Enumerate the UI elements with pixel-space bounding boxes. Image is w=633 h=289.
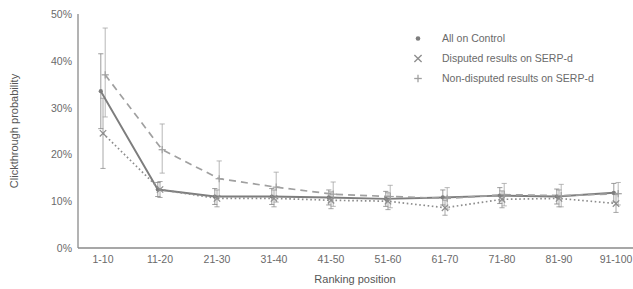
legend: All on ControlDisputed results on SERP-d… <box>414 32 594 84</box>
x-tick-label: 51-60 <box>375 253 402 265</box>
x-tick-label: 91-100 <box>600 253 633 265</box>
series-line <box>101 91 614 199</box>
x-tick-label: 1-10 <box>92 253 113 265</box>
data-point-marker <box>99 89 103 93</box>
y-tick-label: 40% <box>51 55 72 67</box>
y-axis-tick-labels: 0%10%20%30%40%50% <box>51 8 72 254</box>
legend-item[interactable]: Disputed results on SERP-d <box>414 52 572 64</box>
legend-item[interactable]: Non-disputed results on SERP-d <box>414 72 594 84</box>
y-tick-label: 20% <box>51 148 72 160</box>
plus-marker-icon <box>414 75 422 83</box>
cross-marker-icon <box>414 55 421 62</box>
chart-figure: 0%10%20%30%40%50% 1-1011-2021-3031-4041-… <box>0 0 633 289</box>
x-tick-label: 11-20 <box>147 253 173 265</box>
legend-label: Disputed results on SERP-d <box>442 52 573 64</box>
data-point-marker <box>216 175 223 182</box>
dot-marker-icon <box>416 36 421 41</box>
series-lines-layer <box>101 75 618 208</box>
legend-item[interactable]: All on Control <box>416 32 505 44</box>
x-axis-tick-labels: 1-1011-2021-3031-4041-5051-6061-7071-808… <box>92 253 632 265</box>
y-tick-label: 50% <box>51 8 72 20</box>
y-tick-label: 10% <box>51 195 72 207</box>
y-axis-title: Clickthrough probability <box>8 73 20 188</box>
x-tick-label: 61-70 <box>432 253 459 265</box>
x-tick-label: 41-50 <box>318 253 345 265</box>
x-tick-label: 31-40 <box>261 253 288 265</box>
x-tick-label: 81-90 <box>546 253 573 265</box>
y-tick-label: 30% <box>51 102 72 114</box>
clickthrough-probability-line-chart: 0%10%20%30%40%50% 1-1011-2021-3031-4041-… <box>0 0 633 289</box>
x-tick-label: 21-30 <box>204 253 231 265</box>
legend-label: Non-disputed results on SERP-d <box>442 72 594 84</box>
series-line <box>105 75 618 199</box>
x-axis-title: Ranking position <box>314 273 395 285</box>
y-tick-label: 0% <box>57 242 72 254</box>
legend-label: All on Control <box>442 32 505 44</box>
x-tick-label: 71-80 <box>489 253 516 265</box>
series-markers-layer <box>99 71 622 211</box>
